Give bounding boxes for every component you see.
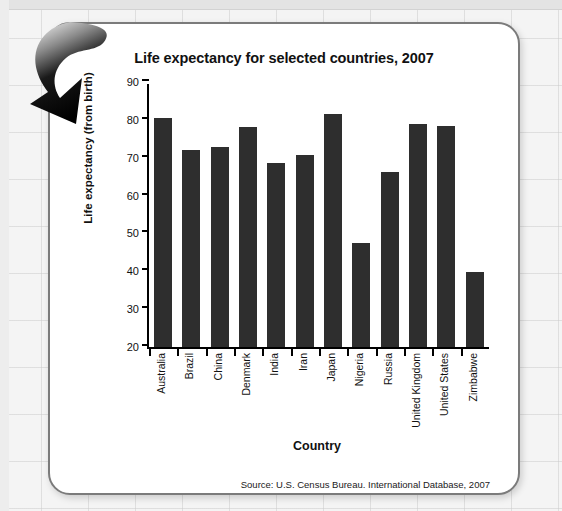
bar-slot <box>461 84 489 347</box>
bar-slot <box>347 84 375 347</box>
y-axis-tick <box>142 155 149 157</box>
bar <box>381 172 399 347</box>
y-axis-tick-label: 60 <box>127 190 139 202</box>
bar <box>324 114 342 347</box>
y-axis-tick-label: 40 <box>127 265 139 277</box>
x-axis-label-slot: Zimbabwe <box>459 353 487 431</box>
x-axis-tick-label: China <box>212 353 224 380</box>
bar <box>267 163 285 347</box>
x-axis-tick-label: Zimbabwe <box>467 353 479 401</box>
y-axis-tick <box>142 193 149 195</box>
bar-slot <box>262 84 290 347</box>
y-axis-tick-label: 20 <box>127 341 139 353</box>
x-axis-tick-labels: AustraliaBrazilChinaDenmarkIndiaIranJapa… <box>147 353 487 431</box>
bar-slot <box>177 84 205 347</box>
x-axis-label-slot: Nigeria <box>345 353 373 431</box>
bar-slot <box>432 84 460 347</box>
y-axis-tick <box>142 117 149 119</box>
y-axis-tick-label: 30 <box>127 303 139 315</box>
x-axis-tick-label: Australia <box>155 353 167 394</box>
left-background-strip <box>0 0 9 511</box>
source-note: Source: U.S. Census Bureau. Internationa… <box>241 479 490 490</box>
x-axis-label-slot: China <box>204 353 232 431</box>
x-axis-label-slot: Brazil <box>175 353 203 431</box>
bar <box>296 155 314 347</box>
x-axis-title: Country <box>147 439 487 453</box>
bar <box>409 124 427 347</box>
bar-slot <box>149 84 177 347</box>
y-axis-title: Life expectancy (from birth) <box>82 48 94 248</box>
x-axis-tick-label: Brazil <box>183 353 195 379</box>
x-axis-label-slot: United States <box>430 353 458 431</box>
bar <box>182 150 200 347</box>
bar-slot <box>404 84 432 347</box>
y-axis-tick-label: 50 <box>127 227 139 239</box>
y-axis-tick-label: 90 <box>127 76 139 88</box>
y-axis-tick <box>142 230 149 232</box>
bar-slot <box>206 84 234 347</box>
x-axis-tick-label: United Kingdom <box>410 353 422 428</box>
x-axis-tick-label: Nigeria <box>353 353 365 386</box>
bar <box>239 127 257 347</box>
slide-card: Life expectancy for selected countries, … <box>48 22 520 495</box>
x-axis-tick-label: India <box>268 353 280 376</box>
y-axis-tick <box>142 306 149 308</box>
bar <box>352 243 370 347</box>
x-axis-tick-label: Japan <box>325 353 337 382</box>
bar <box>211 147 229 347</box>
y-axis-tick-label: 70 <box>127 152 139 164</box>
x-axis-label-slot: India <box>260 353 288 431</box>
x-axis-label-slot: United Kingdom <box>402 353 430 431</box>
bar <box>154 118 172 347</box>
plot-area: 2030405060708090 <box>147 84 489 349</box>
bar <box>437 126 455 347</box>
x-axis-label-slot: Russia <box>374 353 402 431</box>
chart-figure: Life expectancy (from birth) 20304050607… <box>50 24 522 497</box>
x-axis-label-slot: Denmark <box>232 353 260 431</box>
x-axis-label-slot: Japan <box>317 353 345 431</box>
bar-slot <box>234 84 262 347</box>
y-axis-tick <box>142 79 149 81</box>
top-background-strip <box>0 0 562 10</box>
x-axis-label-slot: Australia <box>147 353 175 431</box>
bar-series <box>149 84 489 347</box>
bar-slot <box>376 84 404 347</box>
y-axis-tick <box>142 344 149 346</box>
y-axis-tick <box>142 268 149 270</box>
y-axis-tick-label: 80 <box>127 114 139 126</box>
x-axis-tick-label: Iran <box>297 353 309 371</box>
bar <box>466 272 484 347</box>
x-axis-tick-label: United States <box>438 353 450 416</box>
x-axis-tick-label: Denmark <box>240 353 252 396</box>
bar-slot <box>291 84 319 347</box>
bar-slot <box>319 84 347 347</box>
x-axis-tick-label: Russia <box>382 353 394 385</box>
x-axis-label-slot: Iran <box>289 353 317 431</box>
